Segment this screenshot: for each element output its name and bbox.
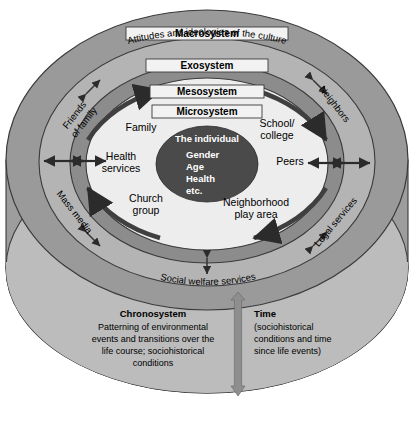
individual-attr-health: Health — [186, 173, 215, 184]
chronosystem-body-line-3: life course; sociohistorical — [102, 346, 205, 356]
time-body-line-1: (sociohistorical — [254, 322, 314, 332]
chronosystem-body-line-1: Patterning of environmental — [98, 322, 208, 332]
microsystem-item-church-line1: Church — [129, 192, 163, 204]
time-heading: Time — [254, 308, 276, 319]
microsystem-item-church-line2: group — [133, 204, 160, 216]
microsystem-item-peers: Peers — [276, 155, 303, 167]
microsystem-item-neighborhood-line1: Neighborhood — [223, 196, 289, 208]
chronosystem-body-line-2: events and transitions over the — [92, 334, 215, 344]
time-body-line-3: since life events) — [254, 346, 321, 356]
microsystem-item-school-line2: college — [260, 129, 293, 141]
microsystem-item-neighborhood-line2: play area — [234, 208, 277, 220]
ring-label-microsystem: Microsystem — [176, 106, 237, 117]
microsystem-item-health-line2: services — [102, 162, 141, 174]
microsystem-item-school-line1: School/ — [259, 117, 294, 129]
chronosystem-body-line-4: conditions — [133, 358, 174, 368]
microsystem-item-family: Family — [126, 121, 158, 133]
microsystem-item-health-line1: Health — [106, 150, 137, 162]
diagram-canvas: Macrosystem Exosystem Mesosystem Microsy… — [0, 0, 413, 424]
individual-attr-etc: etc. — [186, 185, 202, 196]
ring-label-exosystem: Exosystem — [181, 60, 234, 71]
individual-heading: The individual — [175, 133, 239, 144]
time-body-line-2: conditions and time — [254, 334, 332, 344]
ring-label-mesosystem: Mesosystem — [177, 86, 237, 97]
individual-attr-age: Age — [186, 161, 204, 172]
chronosystem-heading: Chronosystem — [120, 308, 187, 319]
individual-attr-gender: Gender — [186, 149, 220, 160]
ecological-systems-diagram: Macrosystem Exosystem Mesosystem Microsy… — [0, 0, 413, 424]
